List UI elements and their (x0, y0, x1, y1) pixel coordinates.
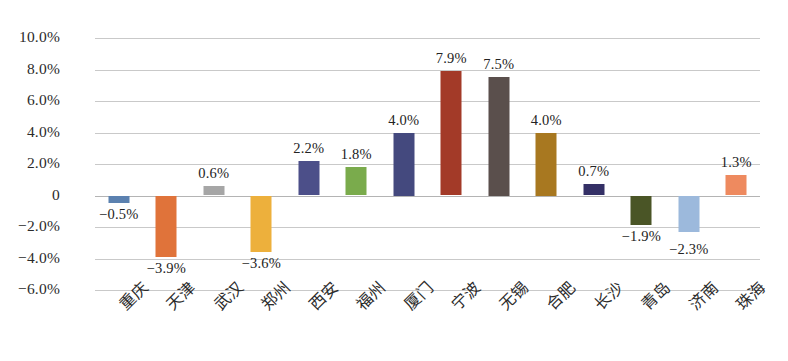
bar-value-label: 4.0% (388, 112, 419, 129)
bar-value-label: 1.3% (721, 154, 752, 171)
bar-group: 0.7% (570, 38, 618, 290)
bar-group: 1.3% (713, 38, 761, 290)
bar[interactable] (441, 71, 462, 195)
x-axis-label-slot: 宁波 (428, 292, 476, 361)
bar-group: 7.5% (475, 38, 523, 290)
y-axis-tick-label: 0 (0, 186, 60, 204)
x-axis-label-slot: 无锡 (475, 292, 523, 361)
y-axis-tick-label: −6.0% (0, 280, 60, 298)
bar-value-label: 1.8% (341, 146, 372, 163)
x-axis-label-slot: 武汉 (190, 292, 238, 361)
bar-group: 4.0% (380, 38, 428, 290)
bar[interactable] (251, 196, 272, 253)
bar[interactable] (393, 133, 414, 196)
y-axis-tick-label: −2.0% (0, 217, 60, 235)
bar-value-label: 7.5% (483, 56, 514, 73)
x-axis-label-slot: 西安 (285, 292, 333, 361)
bar-group: 7.9% (428, 38, 476, 290)
bar-group: 1.8% (333, 38, 381, 290)
bar-value-label: 4.0% (531, 112, 562, 129)
bar-value-label: 0.6% (198, 165, 229, 182)
x-axis-labels: 重庆天津武汉郑州西安福州厦门宁波无锡合肥长沙青岛济南珠海 (95, 292, 760, 361)
bar[interactable] (583, 184, 604, 195)
x-axis-label-slot: 天津 (143, 292, 191, 361)
y-axis-tick-label: 10.0% (0, 28, 60, 46)
bar-group: −1.9% (618, 38, 666, 290)
x-axis-label-slot: 珠海 (713, 292, 761, 361)
x-axis-label-slot: 济南 (665, 292, 713, 361)
bar-value-label: 0.7% (578, 163, 609, 180)
bar-value-label: 7.9% (436, 50, 467, 67)
bar-group: −3.9% (143, 38, 191, 290)
x-axis-label-slot: 合肥 (523, 292, 571, 361)
bar-value-label: −3.6% (242, 255, 281, 272)
x-axis-label-slot: 青岛 (618, 292, 666, 361)
x-axis-label-slot: 长沙 (570, 292, 618, 361)
bar-value-label: 2.2% (293, 140, 324, 157)
bar[interactable] (156, 196, 177, 257)
bar-group: 0.6% (190, 38, 238, 290)
bar-group: 4.0% (523, 38, 571, 290)
bar-group: −2.3% (665, 38, 713, 290)
bar[interactable] (298, 161, 319, 196)
bar[interactable] (678, 196, 699, 232)
y-axis-tick-label: −4.0% (0, 249, 60, 267)
x-axis-label-slot: 重庆 (95, 292, 143, 361)
y-axis-tick-label: 2.0% (0, 154, 60, 172)
y-axis-tick-label: 8.0% (0, 60, 60, 78)
x-axis-label-slot: 福州 (333, 292, 381, 361)
bar[interactable] (203, 186, 224, 195)
bar-group: −3.6% (238, 38, 286, 290)
bar[interactable] (726, 175, 747, 195)
bar[interactable] (488, 77, 509, 195)
bar[interactable] (108, 196, 129, 204)
bar-series: −0.5%−3.9%0.6%−3.6%2.2%1.8%4.0%7.9%7.5%4… (95, 38, 760, 290)
bar-value-label: −0.5% (99, 206, 138, 223)
bar-chart: 10.0%8.0%6.0%4.0%2.0%0−2.0%−4.0%−6.0% −0… (0, 0, 788, 361)
x-axis-label-slot: 郑州 (238, 292, 286, 361)
y-axis-tick-label: 6.0% (0, 91, 60, 109)
bar-group: 2.2% (285, 38, 333, 290)
bar[interactable] (536, 133, 557, 196)
bar-group: −0.5% (95, 38, 143, 290)
bar-value-label: −1.9% (622, 228, 661, 245)
bar-value-label: −2.3% (669, 241, 708, 258)
bar[interactable] (346, 167, 367, 195)
bar[interactable] (631, 196, 652, 226)
plot-area: 10.0%8.0%6.0%4.0%2.0%0−2.0%−4.0%−6.0% −0… (95, 38, 760, 290)
x-axis-label-slot: 厦门 (380, 292, 428, 361)
y-axis-tick-label: 4.0% (0, 123, 60, 141)
bar-value-label: −3.9% (147, 260, 186, 277)
